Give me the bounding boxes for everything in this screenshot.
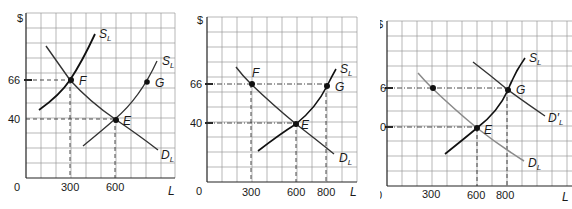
label-DL: DL: [339, 151, 352, 167]
x-tick-300: 300: [422, 188, 440, 200]
label-G: G: [335, 80, 344, 94]
label-E: E: [301, 118, 310, 132]
chart-3-svg: $ 66 40 0 300 600 800 L E G SL D′L DL: [380, 0, 572, 209]
x-tick-300: 300: [242, 186, 260, 198]
x-tick-600: 600: [287, 186, 305, 198]
chart-1-svg: $ 66 40 0 300 600 L F E G SL SL DL: [0, 0, 190, 209]
point-E: [293, 121, 299, 127]
x-axis-label: L: [168, 184, 175, 198]
x-axis-label: L: [350, 185, 357, 199]
x-tick-800: 800: [317, 186, 335, 198]
chart-panel-3: $ 66 40 0 300 600 800 L E G SL D′L DL: [380, 0, 572, 209]
origin-label: 0: [196, 185, 202, 197]
x-tick-800: 800: [496, 189, 514, 201]
x-tick-600: 600: [467, 189, 485, 201]
grid: [387, 21, 572, 186]
y-axis-label: $: [197, 14, 203, 26]
point-F: [68, 77, 74, 83]
label-DL: DL: [528, 156, 541, 172]
point-G: [324, 83, 330, 89]
label-F: F: [79, 74, 87, 88]
label-SL-left: SL: [99, 27, 111, 43]
label-SL: SL: [340, 62, 352, 78]
point-F: [249, 81, 255, 87]
axes: [385, 21, 572, 186]
label-SL: SL: [529, 51, 541, 67]
label-F: F: [252, 66, 260, 80]
x-axis-label: L: [562, 190, 569, 204]
label-G: G: [516, 83, 525, 97]
supply-curve: [445, 58, 525, 154]
y-tick-40: 40: [8, 113, 20, 125]
chart-2-svg: $ 66 40 0 300 600 800 L F E G SL DL: [190, 0, 380, 209]
x-tick-600: 600: [106, 181, 124, 193]
point-G: [505, 87, 511, 93]
point-E: [113, 117, 119, 123]
x-tick-300: 300: [61, 181, 79, 193]
origin-label: 0: [14, 181, 20, 193]
label-DprimeL: D′L: [548, 111, 563, 127]
y-tick-40: 40: [380, 121, 386, 133]
y-tick-40: 40: [190, 117, 202, 129]
axes: [205, 17, 357, 182]
point-F: [430, 85, 436, 91]
dashed-guides: [207, 84, 328, 123]
grid: [207, 17, 357, 182]
point-G: [144, 79, 150, 85]
origin-label: 0: [380, 189, 382, 201]
dashed-guides: [387, 88, 508, 127]
y-axis-label: $: [17, 12, 23, 24]
y-axis-label: $: [380, 18, 383, 30]
label-G: G: [155, 76, 164, 90]
label-SL-right: SL: [162, 54, 174, 70]
label-E: E: [484, 123, 493, 137]
y-tick-66: 66: [380, 82, 386, 94]
label-E: E: [123, 114, 132, 128]
y-tick-66: 66: [8, 74, 20, 86]
chart-panel-2: $ 66 40 0 300 600 800 L F E G SL DL: [190, 0, 380, 209]
y-tick-66: 66: [190, 78, 202, 90]
label-DL: DL: [161, 148, 174, 164]
chart-panel-1: $ 66 40 0 300 600 L F E G SL SL DL: [0, 0, 190, 209]
supply-curve-left: [39, 34, 95, 110]
point-E: [474, 125, 480, 131]
demand-curve: [46, 46, 158, 150]
